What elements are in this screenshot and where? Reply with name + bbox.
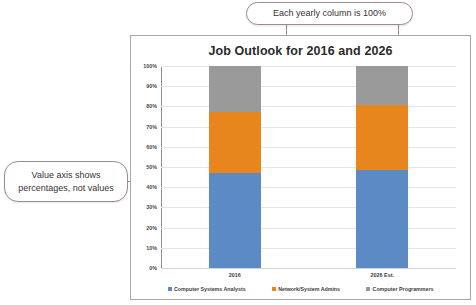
gridline (161, 207, 456, 208)
value-axis-tick: 90% (146, 83, 157, 89)
chart-title: Job Outlook for 2016 and 2026 (131, 44, 470, 58)
value-axis-tick: 80% (146, 103, 157, 109)
bar-segment[interactable] (356, 170, 408, 268)
gridline (161, 127, 456, 128)
value-axis-tick: 10% (146, 245, 157, 251)
stacked-bar[interactable] (209, 66, 261, 268)
plot-area: 0%10%20%30%40%50%60%70%80%90%100% 201620… (161, 66, 456, 268)
gridline (161, 228, 456, 229)
bar-segment[interactable] (209, 173, 261, 268)
value-axis-tick: 60% (146, 144, 157, 150)
gridline (161, 86, 456, 87)
gridline (161, 187, 456, 188)
gridline (161, 147, 456, 148)
legend-swatch-icon (272, 287, 276, 291)
legend-swatch-icon (168, 287, 172, 291)
gridline (161, 66, 456, 67)
bar-segment[interactable] (209, 66, 261, 112)
legend-item[interactable]: Computer Systems Analysts (168, 286, 246, 292)
gridline (161, 268, 456, 269)
legend-item[interactable]: Computer Programmers (366, 286, 433, 292)
legend-label: Network/System Admins (278, 286, 340, 292)
chart-legend[interactable]: Computer Systems AnalystsNetwork/System … (131, 286, 470, 292)
callout-column-total-text: Each yearly column is 100% (273, 7, 386, 19)
legend-item[interactable]: Network/System Admins (272, 286, 340, 292)
slide-canvas: Each yearly column is 100% Value axis sh… (0, 0, 476, 305)
value-axis-tick: 40% (146, 184, 157, 190)
value-axis-tick: 70% (146, 124, 157, 130)
callout-value-axis: Value axis shows percentages, not values (4, 161, 128, 202)
value-axis-tick: 50% (146, 164, 157, 170)
chart-container[interactable]: Job Outlook for 2016 and 2026 0%10%20%30… (130, 35, 471, 300)
bar-segment[interactable] (356, 66, 408, 105)
legend-swatch-icon (366, 287, 370, 291)
value-axis-tick: 0% (149, 265, 157, 271)
callout-column-total: Each yearly column is 100% (246, 2, 413, 25)
bar-segment[interactable] (209, 112, 261, 173)
value-axis-tick: 100% (143, 63, 157, 69)
legend-label: Computer Systems Analysts (174, 286, 246, 292)
value-axis-tick: 30% (146, 204, 157, 210)
gridline (161, 248, 456, 249)
stacked-bar[interactable] (356, 66, 408, 268)
callout-value-axis-text: Value axis shows percentages, not values (14, 169, 118, 193)
bar-segment[interactable] (356, 105, 408, 170)
legend-label: Computer Programmers (373, 286, 434, 292)
gridline (161, 106, 456, 107)
value-axis-tick: 20% (146, 225, 157, 231)
category-label: 2016 (229, 272, 241, 278)
gridline (161, 167, 456, 168)
category-label: 2026 Est. (371, 272, 394, 278)
